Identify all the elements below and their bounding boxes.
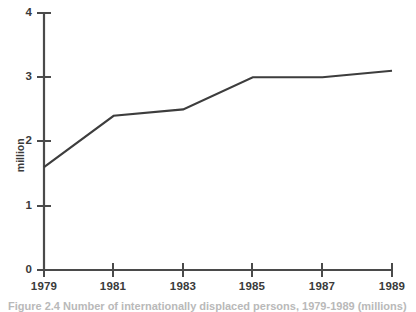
x-tick-label-1989: 1989 [369, 281, 415, 293]
x-tick-label-1985: 1985 [229, 281, 275, 293]
line-chart-plot [0, 0, 416, 312]
y-tick-label-0: 0 [18, 264, 32, 276]
figure-caption: Figure 2.4 Number of internationally dis… [8, 300, 412, 312]
y-tick-label-1: 1 [18, 200, 32, 212]
y-tick-label-3: 3 [18, 71, 32, 83]
x-tick-label-1981: 1981 [90, 281, 136, 293]
figure-container: 4 3 2 1 0 million 1979 1981 1983 1985 19… [0, 0, 416, 312]
x-tick-label-1983: 1983 [160, 281, 206, 293]
y-tick-label-4: 4 [18, 7, 32, 19]
x-tick-label-1979: 1979 [21, 281, 67, 293]
data-series-line [44, 71, 392, 167]
x-tick-label-1987: 1987 [299, 281, 345, 293]
y-axis-title: million [15, 129, 26, 181]
